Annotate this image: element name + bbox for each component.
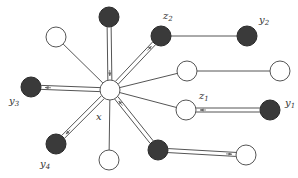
node-top-left	[46, 27, 66, 47]
node-y1	[260, 100, 280, 120]
edge-x-y3	[41, 85, 100, 91]
node-z1	[176, 100, 196, 120]
label-z1: z1	[199, 91, 209, 103]
node-z2	[151, 26, 171, 46]
node-bottom-right	[148, 140, 168, 160]
label-x: x	[96, 112, 102, 122]
edge-x-bottom	[109, 100, 110, 150]
edge-y1-z1	[196, 108, 260, 112]
node-top	[99, 7, 119, 27]
edge-x-mid-right	[120, 73, 178, 87]
edge-top-x	[107, 27, 112, 80]
nodes-layer	[21, 7, 290, 170]
node-y4	[46, 134, 66, 154]
edge-x-top-left	[63, 44, 103, 83]
edge-x-z2	[115, 42, 155, 84]
edge-x-z1	[120, 93, 177, 108]
node-y3	[21, 77, 41, 97]
node-bottom-far	[236, 145, 256, 165]
label-y3: y3	[9, 96, 19, 108]
label-y4: y4	[40, 159, 50, 171]
label-y2: y2	[259, 15, 269, 27]
node-far-right	[270, 61, 290, 81]
node-mid-right	[177, 61, 197, 81]
label-y1: y1	[285, 98, 295, 110]
edge-bottom-right-x	[115, 97, 154, 144]
node-x	[100, 80, 120, 100]
edge-bottom-right-bottom-far	[168, 149, 236, 157]
node-bottom	[99, 150, 119, 170]
label-z2: z2	[163, 11, 173, 23]
edges-layer	[41, 27, 270, 156]
graph-diagram	[0, 0, 298, 178]
node-y2	[237, 26, 257, 46]
